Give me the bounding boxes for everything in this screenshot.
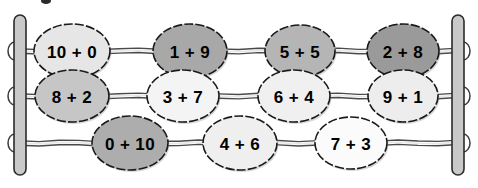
bead-6-plus-4[interactable]: 6 + 4 bbox=[258, 70, 332, 124]
left-post bbox=[8, 15, 26, 175]
left-post-body bbox=[14, 15, 26, 175]
ink-speck-mark bbox=[41, 0, 51, 4]
bead-6-plus-4-label: 6 + 4 bbox=[274, 88, 314, 107]
right-post bbox=[452, 15, 470, 175]
ink-speck bbox=[41, 0, 51, 4]
bead-2-plus-8-label: 2 + 8 bbox=[383, 43, 423, 62]
bead-9-plus-1[interactable]: 9 + 1 bbox=[368, 70, 440, 124]
bead-5-plus-5-label: 5 + 5 bbox=[280, 43, 320, 62]
bead-0-plus-10[interactable]: 0 + 10 bbox=[92, 116, 170, 172]
bead-8-plus-2[interactable]: 8 + 2 bbox=[35, 70, 111, 124]
abacus-illustration: 10 + 01 + 95 + 52 + 88 + 23 + 76 + 49 + … bbox=[0, 0, 478, 188]
bead-1-plus-9-label: 1 + 9 bbox=[170, 43, 210, 62]
bead-9-plus-1-label: 9 + 1 bbox=[383, 88, 423, 107]
bead-4-plus-6[interactable]: 4 + 6 bbox=[203, 116, 279, 172]
abacus-figure: 10 + 01 + 95 + 52 + 88 + 23 + 76 + 49 + … bbox=[0, 0, 478, 188]
bead-3-plus-7-label: 3 + 7 bbox=[163, 88, 203, 107]
right-post-body bbox=[452, 15, 464, 175]
bead-10-plus-0-label: 10 + 0 bbox=[47, 43, 97, 62]
bead-3-plus-7[interactable]: 3 + 7 bbox=[147, 70, 221, 124]
bead-4-plus-6-label: 4 + 6 bbox=[220, 135, 260, 154]
bead-7-plus-3-label: 7 + 3 bbox=[331, 135, 371, 154]
bead-7-plus-3[interactable]: 7 + 3 bbox=[315, 117, 389, 171]
bead-0-plus-10-label: 0 + 10 bbox=[105, 135, 155, 154]
abacus-beads: 10 + 01 + 95 + 52 + 88 + 23 + 76 + 49 + … bbox=[34, 24, 441, 172]
bead-8-plus-2-label: 8 + 2 bbox=[52, 88, 92, 107]
